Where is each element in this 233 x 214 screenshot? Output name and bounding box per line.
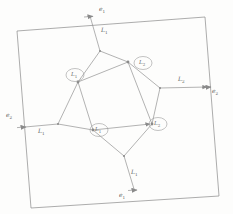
edge-marker-label-e2-left: e2 [6, 112, 12, 120]
arrow-e1-bottom [128, 190, 137, 191]
junction-top [99, 50, 101, 52]
edge-label-L1-bottom: L1 [131, 169, 138, 177]
boundary-edge-arrows [17, 16, 211, 190]
edge-label-L2-right: L2 [178, 76, 185, 84]
arrow-e1-top [84, 16, 93, 17]
arc-left-up [58, 82, 78, 124]
arc-left-down [58, 124, 93, 130]
arc-top-e1 [90, 16, 100, 51]
vertex-label-L1-upper-left: L1 [71, 72, 77, 79]
graph-edges [25, 16, 207, 189]
junction-nodes [57, 50, 161, 157]
vertex-dot-upper-right [127, 61, 130, 64]
vertex-dot-lower-right [151, 123, 154, 126]
junction-bottom [123, 155, 125, 157]
arc-right-e2 [160, 87, 207, 88]
edge-label-L1-top: L1 [101, 27, 108, 35]
vertex-label-L2-upper-right: L2 [139, 60, 145, 67]
outer-square [17, 17, 219, 208]
vertex-label-L2-lower-right: L2 [154, 121, 160, 128]
junction-left [57, 123, 59, 125]
edge-label-L1-left: L1 [38, 128, 45, 136]
arc-bottom-right [124, 124, 152, 156]
arc-top-right [100, 51, 128, 62]
diagram-svg [0, 0, 233, 214]
edge-marker-label-e2-right: e2 [212, 88, 218, 96]
figure-canvas: e1 e2 e2 e1 L1 L2 L1 L1 L1 L2 L1 L2 [0, 0, 233, 214]
edge-marker-label-e1-top: e1 [99, 6, 105, 14]
junction-right [159, 87, 161, 89]
vertex-dot-lower-left [92, 129, 95, 132]
vertex-label-L1-lower-left: L1 [95, 127, 101, 134]
edge-marker-label-e1-bottom: e1 [119, 192, 125, 200]
